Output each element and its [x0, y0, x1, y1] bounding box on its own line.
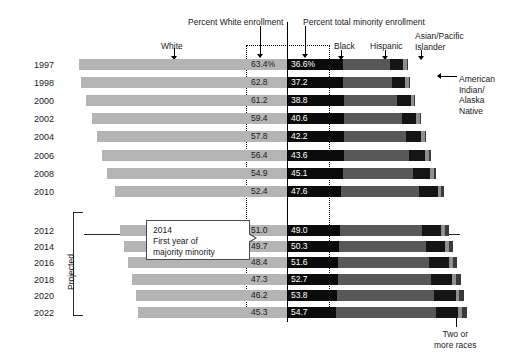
bar-segment-two-or-more-races [453, 257, 458, 268]
bar-segment-two-or-more-races [407, 59, 408, 70]
year-label: 2012 [20, 226, 54, 236]
value-label-minority: 36.6% [291, 59, 331, 70]
bar-segment-asian-pacific-islander [409, 150, 425, 161]
bar-segment-hispanic [344, 150, 409, 161]
year-label: 2004 [20, 132, 54, 142]
value-label-minority: 45.1 [291, 168, 331, 179]
bar-row: 52.447.6 [0, 186, 510, 197]
bar-row: 56.443.6 [0, 150, 510, 161]
bar-segment-asian-pacific-islander [419, 186, 437, 197]
bar-segment-two-or-more-races [459, 290, 464, 301]
bar-segment-asian-pacific-islander [434, 290, 456, 301]
value-label-white: 61.2 [251, 95, 285, 106]
bar-segment-two-or-more-races [462, 307, 468, 318]
bar-segment-hispanic [340, 225, 422, 236]
bar-row: 62.837.2 [0, 77, 510, 88]
bar-segment-asian-pacific-islander [392, 77, 405, 88]
legend-white-label: White [161, 41, 183, 52]
callout-line-3: majority minority [153, 247, 243, 258]
value-label-white: 46.2 [251, 290, 285, 301]
bar-segment-two-or-more-races [456, 274, 461, 285]
bar-row: 63.4%36.6% [0, 59, 510, 70]
year-label: 2016 [20, 258, 54, 268]
bar-segment-hispanic [338, 257, 428, 268]
bar-segment-hispanic [341, 186, 419, 197]
bar-segment-two-or-more-races [414, 95, 415, 106]
bar-segment-asian-pacific-islander [436, 307, 458, 318]
year-label: 2014 [20, 242, 54, 252]
callout-line-1: 2014 [153, 225, 243, 236]
bar-segment-hispanic [344, 131, 406, 142]
year-label: 2002 [20, 114, 54, 124]
bar-segment-two-or-more-races [429, 150, 431, 161]
bar-row: 46.253.8 [0, 290, 510, 301]
bar-segment-hispanic [344, 95, 397, 106]
bar-segment-asian-pacific-islander [397, 95, 411, 106]
value-label-minority: 54.7 [291, 307, 331, 318]
year-label: 2006 [20, 151, 54, 161]
value-label-minority: 40.6 [291, 113, 331, 124]
bar-row: 54.945.1 [0, 168, 510, 179]
header-percent-minority-label: Percent total minority enrollment [303, 17, 425, 28]
value-label-white: 52.4 [251, 186, 285, 197]
header-percent-white-label: Percent White enrollment [188, 17, 283, 28]
bar-segment-asian-pacific-islander [406, 131, 421, 142]
value-label-minority: 37.2 [291, 77, 331, 88]
bar-segment-two-or-more-races [425, 131, 426, 142]
bar-row: 47.352.7 [0, 274, 510, 285]
value-label-white: 48.4 [251, 257, 285, 268]
legend-hispanic-label: Hispanic [370, 41, 403, 52]
bar-row: 59.440.6 [0, 113, 510, 124]
bar-segment-hispanic [336, 307, 436, 318]
year-label: 2008 [20, 169, 54, 179]
value-label-minority: 43.6 [291, 150, 331, 161]
bar-segment-two-or-more-races [434, 168, 436, 179]
value-label-minority: 52.7 [291, 274, 331, 285]
value-label-white: 63.4% [251, 59, 285, 70]
year-label: 2022 [20, 308, 54, 318]
value-label-minority: 49.0 [291, 225, 331, 236]
value-label-minority: 50.3 [291, 241, 331, 252]
value-label-white: 54.9 [251, 168, 285, 179]
bar-segment-asian-pacific-islander [422, 225, 441, 236]
value-label-minority: 38.8 [291, 95, 331, 106]
year-label: 2010 [20, 187, 54, 197]
callout-2014-majority-minority: 2014 First year of majority minority [146, 220, 250, 260]
bar-segment-hispanic [343, 168, 413, 179]
bar-segment-asian-pacific-islander [431, 274, 452, 285]
callout-pointer [248, 234, 255, 242]
value-label-white: 62.8 [251, 77, 285, 88]
legend-two-or-more-races-label: Two or more races [434, 329, 477, 350]
value-label-minority: 42.2 [291, 131, 331, 142]
value-label-minority: 51.6 [291, 257, 331, 268]
bar-segment-two-or-more-races [409, 77, 410, 88]
enrollment-stacked-bar-chart: Percent White enrollment Percent total m… [0, 0, 510, 358]
bar-segment-hispanic [344, 113, 402, 124]
bar-segment-two-or-more-races [441, 186, 444, 197]
value-label-white: 47.3 [251, 274, 285, 285]
year-label: 1998 [20, 78, 54, 88]
legend-black-label: Black [334, 41, 355, 52]
bar-row: 57.842.2 [0, 131, 510, 142]
value-label-minority: 47.6 [291, 186, 331, 197]
bar-segment-hispanic [343, 59, 390, 70]
year-label: 2020 [20, 291, 54, 301]
year-label: 2000 [20, 96, 54, 106]
bar-segment-hispanic [343, 77, 392, 88]
bar-segment-two-or-more-races [420, 113, 421, 124]
value-label-minority: 53.8 [291, 290, 331, 301]
legend-asian-pacific-islander-label: Asian/Pacific Islander [415, 31, 464, 52]
value-label-white: 56.4 [251, 150, 285, 161]
bar-row: 48.451.6 [0, 257, 510, 268]
bar-row: 45.354.7 [0, 307, 510, 318]
value-label-white: 59.4 [251, 113, 285, 124]
year-label: 2018 [20, 275, 54, 285]
bar-segment-asian-pacific-islander [402, 113, 416, 124]
bar-segment-asian-pacific-islander [413, 168, 430, 179]
bar-row: 61.238.8 [0, 95, 510, 106]
bar-segment-asian-pacific-islander [390, 59, 403, 70]
bar-segment-asian-pacific-islander [429, 257, 449, 268]
bar-segment-hispanic [338, 274, 432, 285]
bar-segment-two-or-more-races [449, 241, 453, 252]
value-label-white: 45.3 [251, 307, 285, 318]
